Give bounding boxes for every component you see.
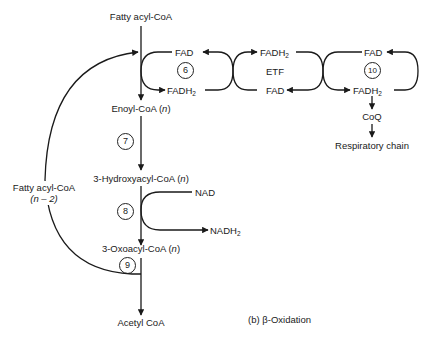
acetyl-coa-label: Acetyl CoA bbox=[118, 317, 165, 328]
subscript-2: 2 bbox=[378, 90, 382, 97]
oxoacyl-coa-text: 3-Oxoacyl-CoA bbox=[102, 243, 166, 254]
recycle-label-line2: (n – 2) bbox=[13, 193, 75, 204]
coq-label: CoQ bbox=[362, 111, 382, 122]
enoyl-coa-text: Enoyl-CoA bbox=[111, 103, 156, 114]
step-7-badge: 7 bbox=[117, 133, 134, 150]
fad-etf-label: FAD bbox=[266, 85, 284, 96]
step-6-badge: 6 bbox=[177, 62, 194, 79]
nad-label: NAD bbox=[195, 187, 215, 198]
subscript-2: 2 bbox=[192, 90, 196, 97]
hydroxyacyl-coa-label: 3-Hydroxyacyl-CoA (n) bbox=[93, 173, 189, 184]
fatty-acyl-coa-label: Fatty acyl-CoA bbox=[110, 11, 172, 22]
fadh2-etf-label: FADH2 bbox=[260, 47, 289, 61]
nadh2-label: NADH2 bbox=[210, 225, 241, 239]
n-suffix: n bbox=[180, 173, 185, 184]
oxoacyl-coa-label: 3-Oxoacyl-CoA (n) bbox=[102, 243, 180, 254]
recycle-label-line1: Fatty acyl-CoA bbox=[13, 182, 75, 193]
step-9-badge: 9 bbox=[119, 257, 136, 274]
recycle-label: Fatty acyl-CoA (n – 2) bbox=[13, 181, 75, 205]
fadh2-10-label: FADH2 bbox=[353, 85, 382, 99]
step-8-badge: 8 bbox=[117, 203, 134, 220]
n-suffix: n bbox=[172, 243, 177, 254]
subscript-2: 2 bbox=[285, 52, 289, 59]
respiratory-chain-label: Respiratory chain bbox=[335, 140, 409, 151]
fad-10-label: FAD bbox=[364, 47, 382, 58]
hydroxyacyl-coa-text: 3-Hydroxyacyl-CoA bbox=[93, 173, 174, 184]
fadh-text: FADH bbox=[167, 85, 192, 96]
fadh-text: FADH bbox=[353, 85, 378, 96]
fadh2-6-label: FADH2 bbox=[167, 85, 196, 99]
figure-caption: (b) β-Oxidation bbox=[248, 314, 311, 325]
step-10-badge: 10 bbox=[364, 62, 381, 79]
fad-6-label: FAD bbox=[175, 47, 193, 58]
subscript-2: 2 bbox=[237, 230, 241, 237]
nadh-text: NADH bbox=[210, 225, 237, 236]
etf-label: ETF bbox=[266, 66, 284, 77]
n-suffix: n bbox=[162, 103, 167, 114]
enoyl-coa-label: Enoyl-CoA (n) bbox=[111, 103, 170, 114]
fadh-text: FADH bbox=[260, 47, 285, 58]
